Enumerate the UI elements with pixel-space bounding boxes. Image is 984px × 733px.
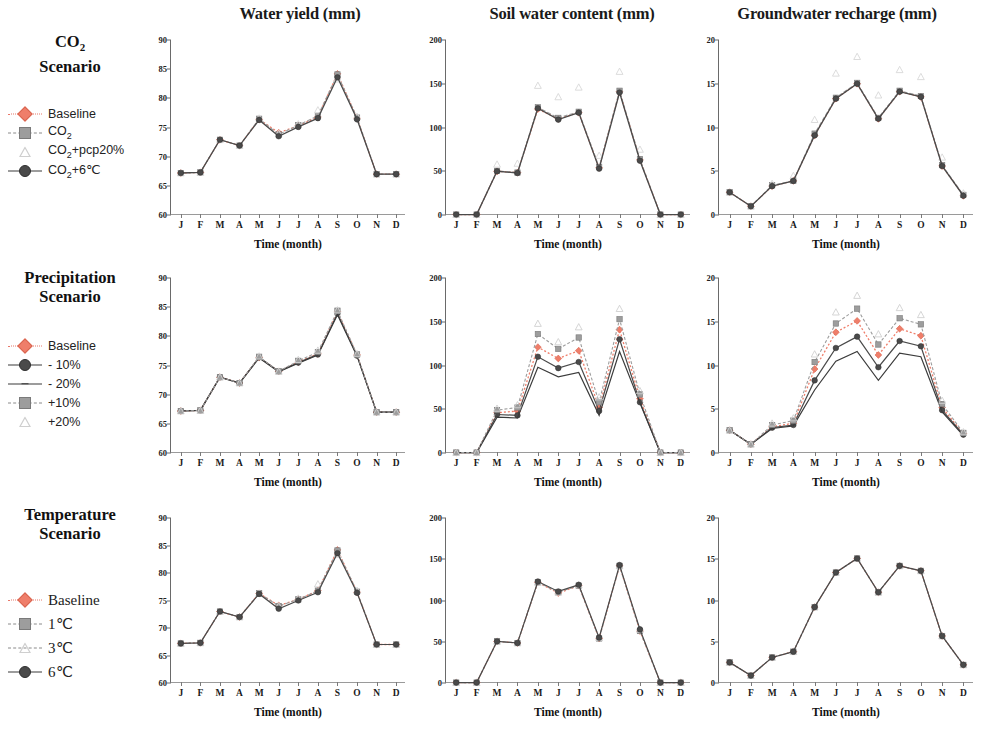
legend-marker-square-icon xyxy=(8,126,42,140)
data-point-Baseline xyxy=(575,347,582,354)
data-point-+20% xyxy=(555,338,562,344)
legend-co2-scenario: BaselineCO2CO2+pcp20%CO2+6℃ xyxy=(8,104,144,180)
legend-marker-diamond-icon xyxy=(8,591,42,609)
x-axis-tick-label: D xyxy=(677,688,684,698)
x-axis-tick-label: F xyxy=(197,458,203,468)
y-axis-tick-label: 90 xyxy=(159,35,168,45)
legend-marker-glyph xyxy=(22,383,29,385)
legend-item-precipitation-3: +10% xyxy=(8,393,144,412)
y-axis-tick-label: 60 xyxy=(159,448,168,458)
y-axis-tick-label: 70 xyxy=(159,390,168,400)
legend-marker-glyph xyxy=(19,146,31,157)
x-axis-tick-label: N xyxy=(657,458,664,468)
y-axis-tick-label: 60 xyxy=(159,678,168,688)
series-line-Baseline xyxy=(181,312,396,412)
y-axis-tick-label: 10 xyxy=(707,361,716,371)
data-point-+10% xyxy=(576,335,581,340)
x-axis-tick-label: F xyxy=(474,688,480,698)
x-axis-tick-label: A xyxy=(314,458,321,468)
data-point-+10% xyxy=(876,342,881,347)
data-point-+10% xyxy=(596,400,601,405)
legend-label: +10% xyxy=(48,396,80,410)
x-axis-title: Time (month) xyxy=(171,476,405,488)
x-axis-tick-label: D xyxy=(960,458,967,468)
data-point-Baseline xyxy=(555,355,562,362)
x-axis-tick-label: J xyxy=(576,220,581,230)
x-axis-tick-label: O xyxy=(353,688,360,698)
data-point-CO2+6C xyxy=(812,133,818,139)
x-axis-tick-label: M xyxy=(810,458,819,468)
x-axis-tick-label: J xyxy=(296,688,301,698)
y-axis-tick-label: 70 xyxy=(159,623,168,633)
series-line-6C xyxy=(730,558,964,675)
x-axis-tick-label: A xyxy=(875,458,882,468)
x-axis-tick-label: J xyxy=(834,220,839,230)
legend-marker-glyph xyxy=(19,397,31,409)
chart-panel-r0c1: 050100150200JFMAMJJASONDTime (month) xyxy=(445,40,690,215)
data-point-CO2+6C xyxy=(939,163,945,169)
y-axis-tick-label: 65 xyxy=(159,651,168,661)
x-axis-tick-label: M xyxy=(255,220,264,230)
data-point-CO2+6C xyxy=(374,171,380,177)
legend-label: 1℃ xyxy=(48,615,73,633)
x-axis-tick-label: J xyxy=(296,458,301,468)
x-axis-title: Time (month) xyxy=(719,706,973,718)
data-point-CO2+pcp20% xyxy=(917,73,924,79)
plot-area: 60657075808590JFMAMJJASONDTime (month) xyxy=(170,40,405,215)
y-axis-tick-label: 50 xyxy=(434,637,443,647)
series-line-+10% xyxy=(181,311,396,413)
plot-area: 05101520JFMAMJJASONDTime (month) xyxy=(718,278,973,453)
series-line-CO2 xyxy=(456,91,681,215)
series-line-Baseline xyxy=(730,558,964,675)
y-axis-tick-label: 90 xyxy=(159,273,168,283)
y-axis-tick-label: 150 xyxy=(429,317,442,327)
data-point-+20% xyxy=(875,331,882,337)
x-axis-tick-label: A xyxy=(790,458,797,468)
x-axis-tick-label: D xyxy=(393,220,400,230)
legend-marker-square-icon xyxy=(8,396,42,410)
series-line-- 20% xyxy=(730,352,964,445)
y-axis-tick-label: 50 xyxy=(434,166,443,176)
y-axis-tick-label: 50 xyxy=(434,404,443,414)
data-point-+10% xyxy=(897,316,902,321)
x-axis-tick-label: J xyxy=(576,688,581,698)
legend-marker-glyph xyxy=(17,592,33,608)
data-point-+10% xyxy=(535,331,540,336)
x-axis-tick-label: A xyxy=(875,220,882,230)
data-point-+20% xyxy=(575,324,582,330)
data-point-+10% xyxy=(833,321,838,326)
x-axis-tick-label: S xyxy=(617,688,622,698)
data-point-6C xyxy=(791,649,797,655)
x-axis-tick-label: J xyxy=(178,688,183,698)
series-line-- 20% xyxy=(181,315,396,412)
series-line-Baseline xyxy=(456,92,681,215)
x-axis-tick-label: M xyxy=(768,688,777,698)
data-point-6C xyxy=(453,680,459,686)
series-line-Baseline xyxy=(456,566,681,683)
data-point-6C xyxy=(494,639,500,645)
x-axis-tick-label: J xyxy=(556,458,561,468)
plot-area: 60657075808590JFMAMJJASONDTime (month) xyxy=(170,278,405,453)
data-point-6C xyxy=(637,627,643,633)
legend-marker-triangle-icon xyxy=(8,145,42,159)
legend-label: - 20% xyxy=(48,377,81,391)
x-axis-tick-label: D xyxy=(960,220,967,230)
data-point-CO2+pcp20% xyxy=(575,84,582,90)
y-axis-tick-label: 65 xyxy=(159,181,168,191)
data-point-- 10% xyxy=(918,343,924,349)
x-axis-tick-label: J xyxy=(276,458,281,468)
y-axis-tick-label: 20 xyxy=(707,35,716,45)
data-point-6C xyxy=(217,609,223,615)
series-layer xyxy=(446,518,691,683)
legend-label: Baseline xyxy=(48,107,96,121)
x-axis-tick-label: J xyxy=(727,458,732,468)
data-point-6C xyxy=(393,642,399,648)
y-axis-tick-label: 20 xyxy=(707,513,716,523)
series-layer xyxy=(171,518,406,683)
chart-panel-r2c0: 60657075808590JFMAMJJASONDTime (month) xyxy=(170,518,405,683)
data-point-CO2+pcp20% xyxy=(555,93,562,99)
y-axis-tick-label: 20 xyxy=(707,273,716,283)
legend-marker-glyph xyxy=(19,127,31,139)
row-label-co2-scenario: CO2 Scenario xyxy=(0,32,140,76)
data-point-6C xyxy=(961,662,967,668)
